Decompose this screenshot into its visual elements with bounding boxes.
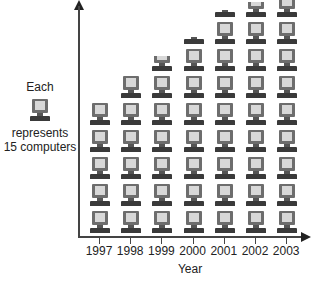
pictograph-column-2001 xyxy=(212,7,238,234)
computer-icon xyxy=(28,98,52,122)
computer-icon xyxy=(213,210,237,234)
computer-icon xyxy=(213,183,237,207)
computer-icon xyxy=(182,129,206,153)
computer-icon xyxy=(244,75,268,99)
chart-legend: Each represents 15 computers xyxy=(0,80,80,154)
partial-computer-icon xyxy=(244,2,268,18)
pictograph-column-2002 xyxy=(243,0,269,234)
pictograph-column-1999 xyxy=(149,53,175,234)
computer-icon xyxy=(213,102,237,126)
x-axis-title: Year xyxy=(170,262,210,276)
computer-icon xyxy=(182,156,206,180)
computer-icon xyxy=(150,102,174,126)
computer-icon xyxy=(275,48,299,72)
computer-icon xyxy=(182,48,206,72)
pictograph-column-1998 xyxy=(118,72,144,234)
computer-icon xyxy=(119,156,143,180)
computer-icon xyxy=(182,210,206,234)
computer-icon xyxy=(275,183,299,207)
legend-line-unit: 15 computers xyxy=(0,140,80,154)
computer-icon xyxy=(150,183,174,207)
computer-icon xyxy=(213,21,237,45)
computer-icon xyxy=(244,183,268,207)
partial-computer-icon xyxy=(213,10,237,18)
x-axis xyxy=(78,236,303,238)
computer-icon xyxy=(275,75,299,99)
computer-icon xyxy=(119,183,143,207)
computer-icon xyxy=(244,48,268,72)
computer-icon xyxy=(88,156,112,180)
computer-icon xyxy=(244,156,268,180)
computer-icon xyxy=(275,129,299,153)
partial-computer-icon xyxy=(150,56,174,72)
computer-icon xyxy=(275,210,299,234)
computer-icon xyxy=(213,48,237,72)
computer-icon xyxy=(244,129,268,153)
computer-icon xyxy=(244,102,268,126)
y-axis xyxy=(78,6,80,236)
computer-icon xyxy=(119,75,143,99)
computer-icon xyxy=(182,102,206,126)
partial-computer-icon xyxy=(182,37,206,45)
computer-icon xyxy=(150,129,174,153)
computer-icon xyxy=(244,210,268,234)
computer-icon xyxy=(244,21,268,45)
computer-icon xyxy=(150,75,174,99)
computer-icon xyxy=(275,102,299,126)
pictograph-column-2000 xyxy=(181,34,207,234)
computer-icon xyxy=(119,129,143,153)
computer-icon xyxy=(88,129,112,153)
computer-icon xyxy=(275,0,299,18)
computer-icon xyxy=(182,75,206,99)
legend-line-represents: represents xyxy=(0,126,80,140)
computer-icon xyxy=(88,183,112,207)
computer-icon xyxy=(150,210,174,234)
computer-icon xyxy=(213,75,237,99)
x-tick-label-2003: 2003 xyxy=(268,244,304,258)
legend-line-each: Each xyxy=(0,80,80,94)
computer-icon xyxy=(213,156,237,180)
computer-icon xyxy=(119,210,143,234)
computer-icon xyxy=(275,21,299,45)
computer-icon xyxy=(119,102,143,126)
computer-icon xyxy=(88,102,112,126)
computer-icon xyxy=(88,210,112,234)
pictograph-column-2003 xyxy=(274,0,300,234)
computer-icon xyxy=(213,129,237,153)
computer-icon xyxy=(150,156,174,180)
pictograph-column-1997 xyxy=(87,99,113,234)
computer-icon xyxy=(275,156,299,180)
x-axis-arrow xyxy=(301,232,311,242)
computer-icon xyxy=(182,183,206,207)
